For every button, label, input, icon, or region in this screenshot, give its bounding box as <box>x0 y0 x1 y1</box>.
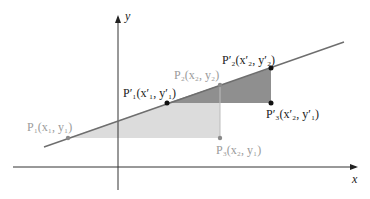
label-p2: P₂(x₂, y₂) <box>174 68 219 82</box>
y-axis-label: y <box>124 9 131 23</box>
label-p1-prime: P′₁(x′₁, y′₁) <box>123 86 176 100</box>
point-p3-prime <box>269 101 274 106</box>
point-p1-prime <box>165 101 170 106</box>
point-p2 <box>218 83 222 87</box>
label-p2-prime: P′₂(x′₂, y′₂) <box>222 53 275 67</box>
point-p1 <box>66 136 70 140</box>
label-p3-prime: P′₃(x′₂, y′₁) <box>266 107 319 121</box>
x-axis-label: x <box>351 172 358 186</box>
point-p3 <box>218 136 222 140</box>
label-p1: P₁(x₁, y₁) <box>27 120 72 134</box>
label-p3: P₃(x₂, y₁) <box>216 143 261 157</box>
slope-diagram: x y P₁(x₁, y₁) P₂(x₂, y₂) P₃(x₂, y₁) P′₁… <box>0 0 370 199</box>
